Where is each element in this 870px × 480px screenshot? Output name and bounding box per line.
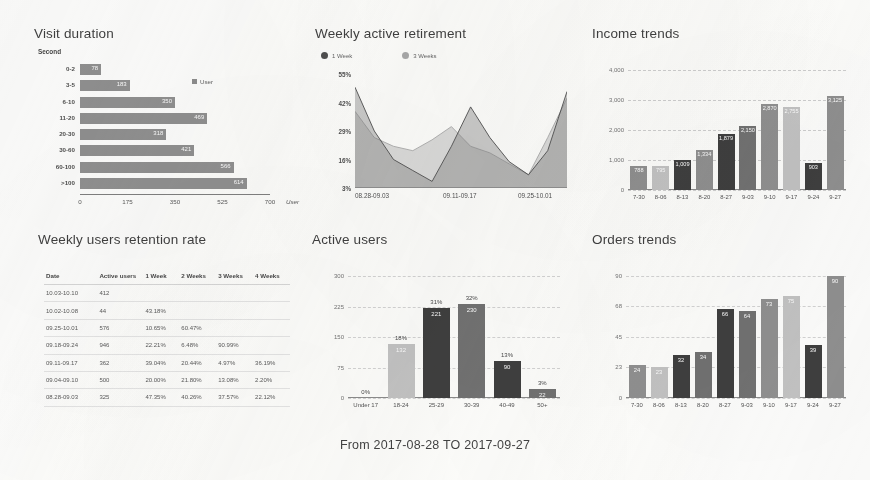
table-row: 09.18-09.2494622.21%6.48%90.99% — [44, 337, 290, 354]
bar-value-label: 73 — [761, 301, 778, 307]
bar-value-label: 1,879 — [718, 135, 735, 141]
retirement-plot: 3%16%29%42%55%08.28-09.0309.11-09.1709.2… — [355, 74, 567, 188]
bar: 2,755 — [783, 70, 800, 190]
panel-visit-duration: Visit duration Second User 0-2783-51836-… — [34, 26, 294, 206]
panel-orders-trends: Orders trends 023456890247-30238-06328-1… — [592, 232, 860, 422]
table-cell — [179, 285, 216, 302]
bar: 350 — [80, 97, 175, 108]
bar: 3%22 — [529, 276, 556, 398]
table-row: 6-10350 — [80, 97, 270, 108]
x-axis-tick-label: 9-24 — [802, 194, 824, 200]
table-cell: 09.18-09.24 — [44, 337, 97, 354]
table-header-row: DateActive users1 Week2 Weeks3 Weeks4 We… — [44, 268, 290, 285]
bar-value-label: 64 — [739, 313, 756, 319]
bar-value-label: 2,150 — [739, 127, 756, 133]
x-axis-tick-label: 9-17 — [781, 194, 803, 200]
bar: 18%132 — [388, 276, 415, 398]
bar-value-label: 795 — [652, 167, 669, 173]
y-axis-tick-label: 68 — [615, 303, 622, 309]
bar-percent-label: 13% — [494, 352, 521, 358]
gridline — [628, 190, 846, 191]
bar: 32 — [673, 276, 690, 398]
bar-value-label: 566 — [221, 163, 231, 169]
table-row: 20-30318 — [80, 129, 270, 140]
bar-fill — [718, 134, 735, 190]
table-column-header: Active users — [97, 268, 143, 285]
bar-value-label: 78 — [91, 65, 98, 71]
table-row: 09.04-09.1050020.00%21.80%13.08%2.20% — [44, 371, 290, 388]
visit-duration-plot: 0-2783-51836-1035011-2046920-3031830-604… — [80, 62, 270, 192]
table-cell: 10.65% — [143, 319, 179, 336]
table-cell: 4.97% — [216, 354, 253, 371]
x-axis-tick-label: 25-29 — [418, 402, 454, 408]
y-axis-tick-label: 16% — [338, 156, 351, 163]
bar-value-label: 24 — [629, 367, 646, 373]
bar-value-label: 2,755 — [783, 108, 800, 114]
y-axis-tick-label: 3% — [342, 185, 351, 192]
panel-income-trends: Income trends 01,0002,0003,0004,0007887-… — [592, 26, 860, 206]
panel-active-users: Active users 0751502253000%Under 1718%13… — [312, 232, 580, 422]
panel-title-retirement: Weekly active retirement — [315, 26, 580, 41]
bar-value-label: 183 — [117, 81, 127, 87]
bar-fill — [739, 126, 756, 191]
y-axis-tick-label: 300 — [334, 273, 344, 279]
x-axis-tick-label: 700 — [265, 198, 275, 205]
bar: 90 — [827, 276, 844, 398]
orders-plot: 023456890247-30238-06328-13348-20668-276… — [626, 276, 846, 398]
y-axis-tick-label: 0 — [619, 395, 622, 401]
bar-category-label: 60-100 — [56, 163, 75, 170]
table-column-header: 4 Weeks — [253, 268, 290, 285]
table-cell: 412 — [97, 285, 143, 302]
table-cell: 22.12% — [253, 389, 290, 406]
table-cell: 08.28-09.03 — [44, 389, 97, 406]
gridline — [348, 398, 560, 399]
x-axis-tick-label: 9-24 — [802, 402, 824, 408]
report-date-range: From 2017-08-28 TO 2017-09-27 — [0, 438, 870, 452]
table-row: 10.03-10.10412 — [44, 285, 290, 302]
bar-value-label: 32 — [673, 357, 690, 363]
bar: 75 — [783, 276, 800, 398]
x-axis-tick-label: 30-39 — [454, 402, 490, 408]
x-axis-tick-label: 8-27 — [715, 194, 737, 200]
table-column-header: 3 Weeks — [216, 268, 253, 285]
bar-value-label: 3,125 — [827, 97, 844, 103]
bar: 64 — [739, 276, 756, 398]
bar-fill — [783, 296, 800, 398]
x-axis-tick-label: 9-10 — [758, 402, 780, 408]
x-axis-tick-label: 09.11-09.17 — [443, 192, 477, 199]
y-axis-tick-label: 42% — [338, 99, 351, 106]
x-axis-tick-label: 9-17 — [780, 402, 802, 408]
bar-value-label: 221 — [423, 311, 450, 317]
x-axis-tick-label: 525 — [217, 198, 227, 205]
x-axis-tick-label: 9-03 — [736, 402, 758, 408]
table-cell: 2.20% — [253, 371, 290, 388]
bar-fill — [458, 304, 485, 398]
bar: 34 — [695, 276, 712, 398]
table-cell: 6.48% — [179, 337, 216, 354]
table-cell — [216, 285, 253, 302]
bar: 183 — [80, 80, 130, 91]
bar: 78 — [80, 64, 101, 75]
table-row: 09.25-10.0157610.65%60.47% — [44, 319, 290, 336]
table-cell: 576 — [97, 319, 143, 336]
x-axis-unit-label: User — [286, 198, 299, 205]
x-axis-tick-label: 9-27 — [824, 194, 846, 200]
legend-item-2: 3 Weeks — [402, 52, 436, 59]
table-row: 30-60421 — [80, 145, 270, 156]
bar-value-label: 23 — [651, 369, 668, 375]
bar-category-label: 0-2 — [66, 65, 75, 72]
bar-value-label: 39 — [805, 347, 822, 353]
bar: 66 — [717, 276, 734, 398]
table-cell: 20.44% — [179, 354, 216, 371]
table-row: 0-278 — [80, 64, 270, 75]
table-cell: 20.00% — [143, 371, 179, 388]
table-cell: 09.25-10.01 — [44, 319, 97, 336]
x-axis-tick-label: 50+ — [524, 402, 560, 408]
table-cell: 21.80% — [179, 371, 216, 388]
x-axis-tick-label: 8-06 — [648, 402, 670, 408]
bar-value-label: 132 — [388, 347, 415, 353]
x-axis-tick-label: 0 — [78, 198, 81, 205]
legend-label: 3 Weeks — [413, 53, 436, 59]
x-axis-tick-label: 8-20 — [692, 402, 714, 408]
table-row: >100614 — [80, 178, 270, 189]
